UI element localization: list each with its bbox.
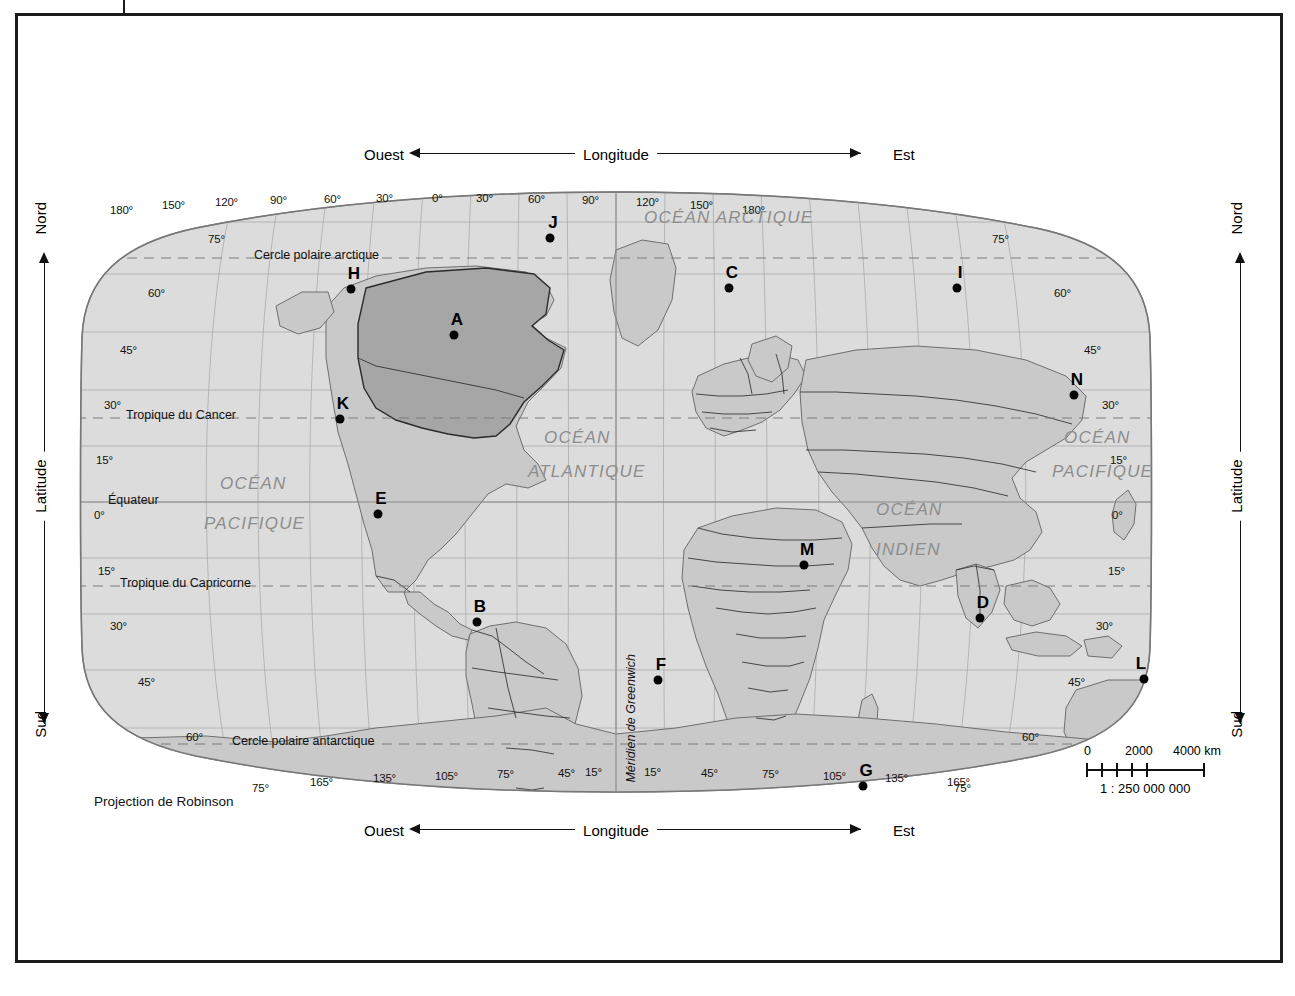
marker-point-E[interactable] (374, 510, 383, 519)
lat-tick-left-4: 15° (96, 454, 113, 466)
marker-point-D[interactable] (976, 614, 985, 623)
marker-point-H[interactable] (347, 285, 356, 294)
scale-label-max: 4000 km (1173, 744, 1221, 758)
lon-tick-bot-5: 15° (585, 766, 602, 778)
label-cercle-polaire-arctique: Cercle polaire arctique (254, 248, 379, 262)
latitude-axis-left: Nord Latitude Sud (32, 166, 58, 806)
scale-tick-3 (1131, 763, 1133, 777)
marker-label-L: L (1136, 654, 1146, 674)
marker-label-N: N (1071, 370, 1083, 390)
arrow-east-bottom (850, 824, 861, 834)
marker-point-L[interactable] (1140, 675, 1149, 684)
lat-tick-right-9: 60° (1022, 731, 1039, 743)
lon-tick-top-2: 120° (215, 196, 238, 208)
top-crop-tick (123, 0, 125, 14)
lat-tick-left-2: 45° (120, 344, 137, 356)
label-tropique-du-capricorne: Tropique du Capricorne (120, 576, 251, 590)
lon-tick-top-6: 0° (432, 192, 443, 204)
lon-tick-top-9: 90° (582, 194, 599, 206)
lon-tick-bot-2: 105° (435, 770, 458, 782)
longitude-title-top: Longitude (575, 146, 657, 163)
marker-label-B: B (474, 597, 486, 617)
label-ocean-indien-l1: OCÉAN (876, 500, 942, 520)
marker-label-E: E (375, 489, 386, 509)
marker-point-F[interactable] (654, 676, 663, 685)
marker-label-A: A (451, 310, 463, 330)
marker-point-C[interactable] (725, 284, 734, 293)
scale-label-mid: 2000 (1125, 744, 1153, 758)
longitude-axis-top: Ouest Longitude Est (76, 142, 1156, 166)
longitude-title-bottom: Longitude (575, 822, 657, 839)
marker-point-J[interactable] (546, 234, 555, 243)
scale-tick-4 (1146, 763, 1148, 777)
lon-tick-top-8: 60° (528, 193, 545, 205)
marker-point-K[interactable] (336, 415, 345, 424)
latitude-south-label-left: Sud (32, 711, 49, 738)
lon-tick-top-7: 30° (476, 192, 493, 204)
lon-tick-bot-10: 135° (885, 772, 908, 784)
scale-bar-ticks (1084, 763, 1234, 778)
lat-tick-right-6: 15° (1108, 565, 1125, 577)
longitude-east-label-top: Est (893, 146, 915, 163)
scale-tick-0 (1086, 763, 1088, 777)
lon-tick-bot-8: 75° (762, 768, 779, 780)
marker-point-I[interactable] (953, 284, 962, 293)
lat-tick-right-2: 45° (1084, 344, 1101, 356)
marker-point-B[interactable] (473, 618, 482, 627)
marker-label-K: K (337, 394, 349, 414)
marker-point-A[interactable] (450, 331, 459, 340)
lat-tick-left-3: 30° (104, 399, 121, 411)
label-ocean-pacifique-e-l2: PACIFIQUE (1052, 462, 1153, 482)
lon-tick-bot-6: 15° (644, 766, 661, 778)
latitude-title-right: Latitude (1228, 451, 1245, 520)
world-map-figure: Ouest Longitude Est Nord Latitude Sud No… (76, 166, 1156, 806)
arrow-west-top (409, 148, 420, 158)
marker-point-M[interactable] (800, 561, 809, 570)
marker-point-N[interactable] (1070, 391, 1079, 400)
lat-tick-left-9: 60° (186, 731, 203, 743)
lat-tick-left-10: 75° (252, 782, 269, 794)
latitude-north-label-right: Nord (1228, 202, 1245, 235)
label-ocean-atlantique-l1: OCÉAN (544, 428, 610, 448)
marker-label-M: M (800, 540, 814, 560)
marker-label-J: J (548, 213, 557, 233)
latitude-south-label-right: Sud (1228, 711, 1245, 738)
scale-bar-numbers: 0 2000 4000 km (1084, 744, 1234, 761)
lon-tick-top-0: 180° (110, 204, 133, 216)
longitude-axis-bottom: Ouest Longitude Est (76, 818, 1156, 842)
marker-label-G: G (859, 761, 872, 781)
lat-tick-right-3: 30° (1102, 399, 1119, 411)
lon-tick-bot-3: 75° (497, 768, 514, 780)
longitude-east-label-bottom: Est (893, 822, 915, 839)
page-frame: Ouest Longitude Est Nord Latitude Sud No… (15, 13, 1283, 963)
lon-tick-bot-1: 135° (373, 772, 396, 784)
marker-point-G[interactable] (859, 782, 868, 791)
label-ocean-atlantique-l2: ATLANTIQUE (528, 462, 645, 482)
lon-tick-top-10: 120° (636, 196, 659, 208)
label-tropique-du-cancer: Tropique du Cancer (126, 408, 236, 422)
lat-tick-left-6: 15° (98, 565, 115, 577)
scale-tick-1 (1101, 763, 1103, 777)
label-cercle-polaire-antarctique: Cercle polaire antarctique (232, 734, 374, 748)
longitude-west-label-bottom: Ouest (364, 822, 404, 839)
arrow-north-left (39, 252, 49, 263)
arrow-west-bottom (409, 824, 420, 834)
longitude-west-label-top: Ouest (364, 146, 404, 163)
scale-tick-5 (1203, 763, 1205, 777)
latitude-axis-right: Nord Latitude Sud (1228, 166, 1254, 806)
label-equateur: Équateur (108, 493, 159, 507)
label-ocean-arctique: OCÉAN ARCTIQUE (644, 208, 813, 228)
lon-tick-bot-4: 45° (558, 767, 575, 779)
lat-tick-left-7: 30° (110, 620, 127, 632)
scale-tick-2 (1116, 763, 1118, 777)
scale-label-zero: 0 (1084, 744, 1091, 758)
scale-ratio: 1 : 250 000 000 (1100, 781, 1234, 796)
lat-tick-left-0: 75° (208, 233, 225, 245)
arrow-north-right (1235, 252, 1245, 263)
lat-tick-right-8: 45° (1068, 676, 1085, 688)
marker-label-C: C (726, 263, 738, 283)
lon-tick-bot-7: 45° (701, 767, 718, 779)
lon-tick-top-5: 30° (376, 192, 393, 204)
marker-label-F: F (656, 655, 666, 675)
latitude-title-left: Latitude (32, 451, 49, 520)
